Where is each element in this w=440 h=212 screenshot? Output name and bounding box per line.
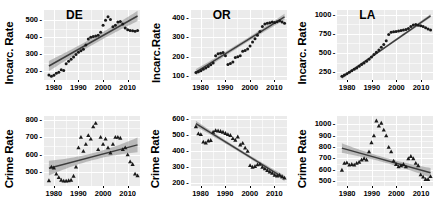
- y-tick-label: 100: [172, 72, 189, 80]
- plot-area: [337, 116, 433, 186]
- panel-la-crime: Crime Rate 5006007008009001000 198019902…: [293, 106, 440, 212]
- data-point: [109, 18, 112, 21]
- data-point: [208, 138, 212, 142]
- data-point: [345, 160, 349, 164]
- data-point: [238, 54, 241, 57]
- y-tick-label: 600: [25, 151, 42, 159]
- x-tick-mark: [225, 80, 226, 82]
- data-point: [65, 62, 68, 65]
- data-point: [52, 74, 55, 77]
- data-point: [372, 133, 376, 137]
- x-tick-label: 2000: [388, 190, 405, 198]
- data-point: [261, 25, 264, 28]
- data-point: [389, 149, 393, 153]
- panel-la-incarc: Incarc. Rate 2505007501000 LA 1980199020…: [293, 0, 440, 106]
- y-tick-label: 400: [172, 14, 189, 22]
- x-tick-label: 1980: [46, 84, 63, 92]
- y-axis-label: Incarc.Rate: [148, 0, 164, 106]
- data-point: [84, 142, 88, 146]
- plot-area: [191, 10, 287, 80]
- y-tick-label: 200: [25, 68, 42, 76]
- y-tick-label: 700: [25, 133, 42, 141]
- data-point: [224, 54, 227, 57]
- data-point: [96, 147, 100, 151]
- y-tick-label: 1000: [315, 11, 336, 19]
- x-tick-mark: [103, 80, 104, 82]
- data-point: [248, 44, 251, 47]
- x-tick-mark: [421, 80, 422, 82]
- x-tick-label: 1990: [217, 84, 234, 92]
- data-point: [70, 58, 73, 61]
- data-point: [101, 142, 105, 146]
- data-point: [246, 47, 249, 50]
- data-point: [69, 178, 73, 182]
- panel-de-incarc: Incarc. Rate 200300400500 DE 19801990200…: [0, 0, 147, 106]
- y-tick-labels: 500600700800: [20, 106, 44, 212]
- data-point: [231, 61, 234, 64]
- x-tick-label: 2000: [388, 84, 405, 92]
- data-point: [211, 61, 214, 64]
- x-tick-mark: [372, 186, 373, 188]
- x-tick-label: 2000: [241, 190, 258, 198]
- data-point: [214, 54, 217, 57]
- data-point: [77, 51, 80, 54]
- y-axis-label: Crime Rate: [1, 106, 17, 212]
- y-tick-labels: 200300400500: [20, 0, 44, 106]
- data-point: [87, 38, 90, 41]
- data-point: [107, 15, 110, 18]
- data-point: [363, 62, 366, 65]
- data-point: [91, 124, 95, 128]
- data-point: [72, 55, 75, 58]
- data-point: [370, 140, 374, 144]
- y-tick-label: 700: [319, 155, 336, 163]
- data-point: [86, 133, 90, 137]
- plot-area: [337, 10, 433, 80]
- data-layer: [44, 10, 140, 80]
- x-tick-mark: [128, 186, 129, 188]
- data-point: [67, 60, 70, 63]
- regression-line: [49, 16, 138, 66]
- data-point: [258, 30, 261, 33]
- data-point: [368, 58, 371, 61]
- data-point: [81, 149, 85, 153]
- data-point: [89, 137, 93, 141]
- y-tick-labels: 100200300400: [167, 0, 191, 106]
- y-tick-label: 600: [319, 166, 336, 174]
- data-point: [102, 24, 105, 27]
- y-tick-label: 1000: [315, 120, 336, 128]
- data-point: [133, 172, 137, 176]
- data-point: [235, 135, 239, 139]
- x-tick-label: 2000: [241, 84, 258, 92]
- data-point: [429, 29, 432, 32]
- y-tick-label: 800: [25, 116, 42, 124]
- data-point: [251, 41, 254, 44]
- y-tick-label: 200: [172, 179, 189, 187]
- data-point: [243, 49, 246, 52]
- data-point: [383, 43, 386, 46]
- data-point: [128, 159, 132, 163]
- panel-de-crime: Crime Rate 500600700800 1980199020002010: [0, 106, 147, 212]
- y-tick-label: 400: [172, 147, 189, 155]
- x-tick-mark: [103, 186, 104, 188]
- data-point: [409, 154, 413, 158]
- y-axis-label: Crime Rate: [148, 106, 164, 212]
- x-tick-mark: [54, 80, 55, 82]
- regression-line: [196, 124, 285, 179]
- x-tick-mark: [347, 186, 348, 188]
- y-tick-label: 500: [319, 49, 336, 57]
- x-tick-mark: [372, 80, 373, 82]
- y-tick-label: 600: [172, 115, 189, 123]
- y-tick-label: 900: [319, 132, 336, 140]
- data-point: [114, 24, 117, 27]
- x-tick-label: 1990: [363, 190, 380, 198]
- data-point: [240, 141, 244, 145]
- data-point: [75, 53, 78, 56]
- data-point: [340, 168, 344, 172]
- y-axis-label: Crime Rate: [294, 106, 310, 212]
- data-point: [57, 175, 61, 179]
- y-tick-label: 300: [172, 33, 189, 41]
- data-point: [79, 135, 83, 139]
- y-tick-label: 750: [319, 30, 336, 38]
- x-tick-label: 2010: [413, 84, 430, 92]
- data-point: [378, 49, 381, 52]
